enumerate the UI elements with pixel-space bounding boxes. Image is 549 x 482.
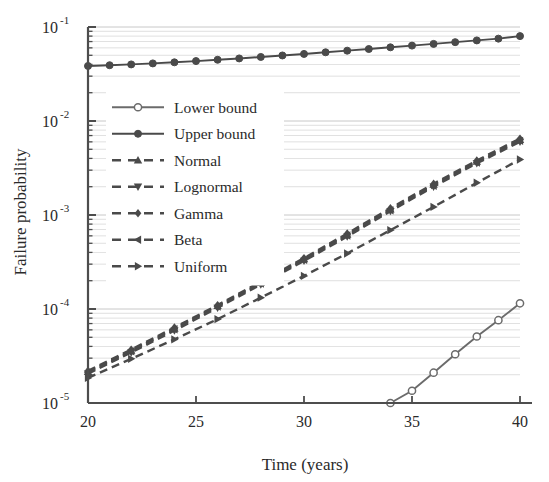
svg-text:-4: -4 xyxy=(60,296,70,308)
x-tick-label: 20 xyxy=(80,413,96,430)
svg-text:10: 10 xyxy=(42,19,58,36)
x-axis-label: Time (years) xyxy=(262,455,349,474)
legend-label: Uniform xyxy=(174,258,227,275)
legend-label: Gamma xyxy=(174,205,223,222)
x-tick-label: 25 xyxy=(188,413,204,430)
failure-probability-chart: 2025303540 10-510-410-310-210-1 Time (ye… xyxy=(0,0,549,482)
svg-text:10: 10 xyxy=(42,395,58,412)
svg-text:-3: -3 xyxy=(60,202,70,214)
legend-label: Upper bound xyxy=(174,125,256,142)
legend-label: Beta xyxy=(174,231,203,248)
x-tick-label: 35 xyxy=(404,413,420,430)
chart-legend[interactable]: Lower boundUpper boundNormalLognormalGam… xyxy=(106,92,284,286)
x-tick-label: 40 xyxy=(512,413,528,430)
svg-text:10: 10 xyxy=(42,301,58,318)
svg-text:-2: -2 xyxy=(60,108,69,120)
chart-figure: 2025303540 10-510-410-310-210-1 Time (ye… xyxy=(0,0,549,482)
svg-text:10: 10 xyxy=(42,113,58,130)
legend-label: Normal xyxy=(174,152,221,169)
legend-label: Lower bound xyxy=(174,99,257,116)
svg-text:-5: -5 xyxy=(60,390,70,402)
y-axis-label: Failure probability xyxy=(11,148,30,276)
svg-text:-1: -1 xyxy=(60,14,69,26)
x-tick-label: 30 xyxy=(296,413,312,430)
legend-label: Lognormal xyxy=(174,178,243,195)
svg-text:10: 10 xyxy=(42,207,58,224)
